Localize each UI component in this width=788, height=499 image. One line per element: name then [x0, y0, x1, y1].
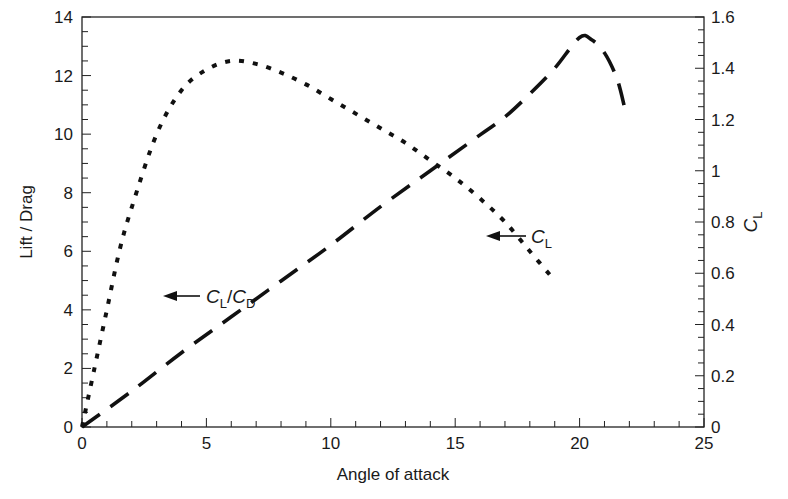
y2-tick-label: 0.6 — [711, 264, 735, 283]
y2-tick-label: 1.6 — [711, 8, 735, 27]
y2-tick-label: 1.4 — [711, 59, 735, 78]
y-tick-label: 6 — [64, 242, 73, 261]
svg-text:CL/CD: CL/CD — [206, 286, 255, 311]
y-axis-title: Lift / Drag — [17, 185, 36, 259]
x-tick-label: 10 — [321, 434, 340, 453]
y2-tick-label: 0.2 — [711, 367, 735, 386]
y2-tick-label: 0.8 — [711, 213, 735, 232]
x-tick-label: 20 — [570, 434, 589, 453]
y2-axis-title: CL — [740, 212, 765, 233]
y-tick-label: 8 — [64, 184, 73, 203]
y2-tick-label: 0 — [711, 418, 720, 437]
svg-text:CL: CL — [740, 212, 765, 233]
lift-drag-ratio-curve — [82, 61, 555, 427]
arrowhead-icon — [163, 291, 177, 301]
y-tick-label: 0 — [64, 418, 73, 437]
x-tick-label: 15 — [446, 434, 465, 453]
lift-drag-chart: 05101520250246810121400.20.40.60.811.21.… — [0, 0, 788, 499]
y-tick-label: 2 — [64, 359, 73, 378]
annotation-cl: CL — [486, 226, 552, 251]
y-tick-label: 10 — [54, 125, 73, 144]
annotation-cl-cd: CL/CD — [163, 286, 255, 311]
y2-tick-label: 1.2 — [711, 111, 735, 130]
y2-tick-label: 1 — [711, 162, 720, 181]
x-axis-title: Angle of attack — [337, 465, 450, 484]
arrowhead-icon — [486, 231, 500, 241]
axis-ticks: 05101520250246810121400.20.40.60.811.21.… — [54, 8, 735, 453]
y-tick-label: 12 — [54, 67, 73, 86]
y-tick-label: 4 — [64, 301, 73, 320]
x-tick-label: 5 — [202, 434, 211, 453]
plot-frame — [82, 17, 704, 427]
x-tick-label: 0 — [77, 434, 86, 453]
y2-tick-label: 0.4 — [711, 316, 735, 335]
plot-border — [82, 17, 704, 427]
y-tick-label: 14 — [54, 8, 73, 27]
svg-text:CL: CL — [531, 226, 552, 251]
